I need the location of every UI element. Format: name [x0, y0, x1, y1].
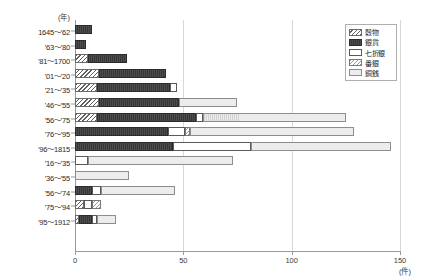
chart-row: '56〜'75 — [75, 112, 400, 126]
legend-item-ginka: 銀貨 — [349, 38, 393, 48]
legend-label-kokumotsu: 穀物 — [365, 27, 378, 37]
y-axis-category-label: 1645〜'62 — [38, 26, 70, 37]
chart-row: '76〜'95 — [75, 126, 400, 140]
y-axis-category-label: '56〜'74 — [45, 186, 70, 197]
x-tick-label-0: 0 — [73, 256, 77, 265]
x-tick-0 — [75, 251, 76, 255]
legend-label-dousen: 銅銭 — [365, 68, 378, 78]
legend-swatch-ginka — [349, 39, 362, 46]
bar-segment — [173, 142, 251, 151]
x-tick-label-50: 50 — [179, 256, 187, 265]
legend-item-dousen: 銅銭 — [349, 68, 393, 78]
stacked-bar — [75, 142, 391, 151]
bar-segment — [75, 142, 173, 151]
chart-row: '36〜'55 — [75, 170, 400, 184]
bar-segment — [88, 156, 233, 165]
legend-item-kokumotsu: 穀物 — [349, 28, 393, 38]
bar-segment — [92, 200, 101, 209]
bar-chart: (年) 1645〜'62'63〜'80'81〜1700'01〜'20'21〜'3… — [0, 0, 425, 280]
stacked-bar — [75, 40, 86, 49]
stacked-bar — [75, 83, 177, 92]
y-axis-category-label: '16〜'35 — [45, 157, 70, 168]
legend-item-nanaoregin: 七折銀 — [349, 48, 393, 58]
chart-row: '75〜'94 — [75, 199, 400, 213]
x-tick-50 — [183, 251, 184, 255]
y-axis-category-label: '36〜'55 — [45, 172, 70, 183]
bar-segment — [75, 200, 84, 209]
bar-segment — [179, 98, 238, 107]
y-axis-category-label: '46〜'55 — [45, 99, 70, 110]
bar-segment — [79, 215, 92, 224]
x-axis-unit-label: (件) — [399, 265, 411, 276]
y-axis-category-label: '81〜1700 — [38, 55, 70, 66]
y-axis-category-label: '56〜'75 — [45, 113, 70, 124]
legend-label-nanaoregin: 七折銀 — [365, 48, 385, 58]
stacked-bar — [75, 200, 101, 209]
gridline-150 — [400, 20, 401, 251]
stacked-bar — [75, 98, 237, 107]
legend-swatch-nanaoregin — [349, 49, 362, 56]
bar-segment — [84, 200, 93, 209]
chart-row: '21〜'35 — [75, 82, 400, 96]
bar-segment — [75, 156, 88, 165]
bar-segment — [251, 142, 392, 151]
legend-swatch-kokumotsu — [349, 29, 362, 36]
bar-segment — [190, 127, 355, 136]
chart-row: '95〜1912 — [75, 214, 400, 228]
y-axis-unit-label: (年) — [58, 11, 70, 22]
stacked-bar — [75, 156, 233, 165]
chart-row: '46〜'55 — [75, 97, 400, 111]
x-tick-150 — [400, 251, 401, 255]
chart-row: '96〜1815 — [75, 141, 400, 155]
stacked-bar — [75, 69, 166, 78]
bar-segment — [97, 215, 117, 224]
bar-segment — [168, 127, 185, 136]
legend-label-bangin: 番銀 — [365, 58, 378, 68]
bar-segment — [203, 113, 346, 122]
x-tick-100 — [292, 251, 293, 255]
y-axis-category-label: '95〜1912 — [38, 215, 70, 226]
bar-segment — [75, 171, 129, 180]
bar-segment — [75, 40, 86, 49]
chart-row: '16〜'35 — [75, 155, 400, 169]
legend: 穀物銀貨七折銀番銀銅銭 — [345, 24, 397, 81]
stacked-bar — [75, 215, 116, 224]
stacked-bar — [75, 186, 175, 195]
bar-segment — [75, 83, 97, 92]
y-axis-category-label: '01〜'20 — [45, 69, 70, 80]
bar-segment — [75, 25, 92, 34]
y-axis-category-label: '21〜'35 — [45, 84, 70, 95]
bar-segment — [97, 83, 171, 92]
x-axis-line — [75, 251, 401, 252]
bar-segment — [88, 54, 127, 63]
x-tick-label-100: 100 — [285, 256, 298, 265]
legend-label-ginka: 銀貨 — [365, 37, 378, 47]
legend-swatch-bangin — [349, 59, 362, 66]
y-axis-category-label: '63〜'80 — [45, 40, 70, 51]
y-axis-category-label: '75〜'94 — [45, 201, 70, 212]
bar-segment — [92, 186, 101, 195]
bar-segment — [75, 69, 99, 78]
bar-segment — [170, 83, 177, 92]
bar-segment — [97, 113, 197, 122]
legend-item-bangin: 番銀 — [349, 58, 393, 68]
bar-segment — [75, 54, 88, 63]
chart-row: '56〜'74 — [75, 185, 400, 199]
stacked-bar — [75, 54, 127, 63]
stacked-bar — [75, 127, 354, 136]
legend-swatch-dousen — [349, 69, 362, 76]
y-axis-category-label: '76〜'95 — [45, 128, 70, 139]
bar-segment — [99, 98, 179, 107]
bar-segment — [75, 98, 99, 107]
y-axis-category-label: '96〜1815 — [38, 142, 70, 153]
bar-segment — [75, 186, 92, 195]
stacked-bar — [75, 25, 92, 34]
stacked-bar — [75, 113, 346, 122]
x-tick-label-150: 150 — [394, 256, 407, 265]
bar-segment — [75, 127, 168, 136]
bar-segment — [101, 186, 175, 195]
bar-segment — [99, 69, 166, 78]
stacked-bar — [75, 171, 129, 180]
bar-segment — [75, 113, 97, 122]
